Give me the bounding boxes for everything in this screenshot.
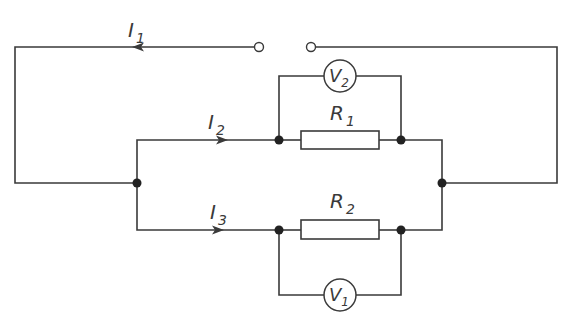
resistor-r1-label: R1 xyxy=(330,101,355,129)
current-i2-label: I2 xyxy=(208,110,225,138)
junction-r2-right xyxy=(397,226,406,235)
junction-r2-left xyxy=(275,226,284,235)
resistor-r1 xyxy=(301,131,379,149)
junction-r1-left xyxy=(275,136,284,145)
current-i3-label: I3 xyxy=(210,200,227,228)
current-i1-label: I1 xyxy=(128,18,145,46)
right-terminal xyxy=(307,43,316,52)
circuit-diagram: I1 I2 I3 R1 V2 R2 V1 xyxy=(0,0,569,323)
parallel-branch-wires xyxy=(137,140,442,230)
outer-loop-wires xyxy=(15,47,557,183)
resistor-r2 xyxy=(301,220,379,239)
junction-nodes xyxy=(133,136,447,235)
left-terminal xyxy=(255,43,264,52)
junction-r1-right xyxy=(397,136,406,145)
resistor-r2-label: R2 xyxy=(330,189,355,217)
junction-left xyxy=(133,179,142,188)
junction-right xyxy=(438,179,447,188)
